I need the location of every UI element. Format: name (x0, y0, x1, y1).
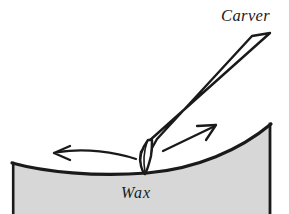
wax-label: Wax (121, 184, 151, 201)
left-arrow-head (54, 146, 70, 160)
right-motion-arrow (163, 125, 216, 151)
left-arrow-shaft (58, 150, 136, 159)
carver-label: Carver (221, 6, 270, 25)
wax-carving-illustration: Carver Wax (0, 0, 289, 214)
left-motion-arrow (54, 146, 136, 160)
figure-container: Carver Wax (0, 0, 289, 214)
